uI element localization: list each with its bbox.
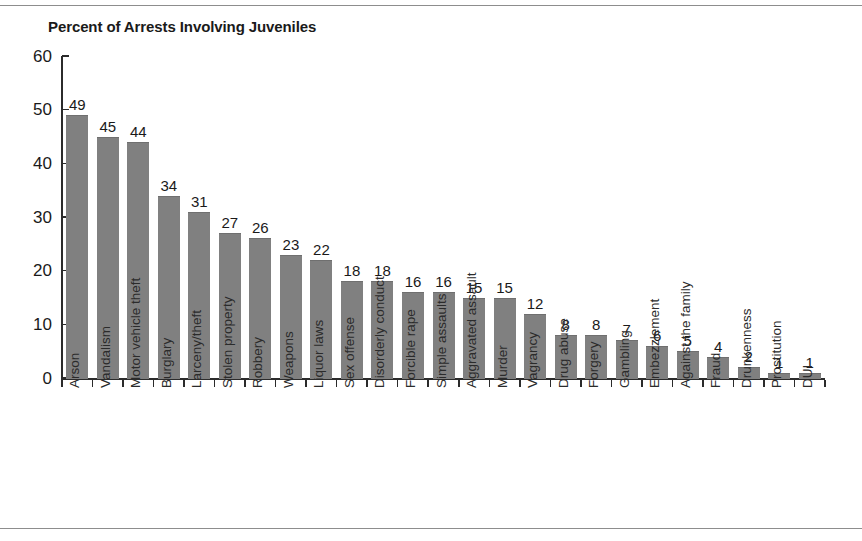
bar-value-label: 15 xyxy=(485,280,525,295)
x-axis-label-text: Drunkenness xyxy=(740,308,754,388)
y-axis-tick-label: 30 xyxy=(0,209,52,226)
x-axis-tick xyxy=(550,380,552,387)
x-axis-tick xyxy=(702,380,704,387)
bar-value-label: 12 xyxy=(515,296,555,311)
x-axis-tick xyxy=(824,380,826,387)
x-axis-tick xyxy=(153,380,155,387)
bar-value-label: 22 xyxy=(301,242,341,257)
x-axis-label-text: Simple assaults xyxy=(435,293,449,388)
bar-value-label: 34 xyxy=(149,178,189,193)
x-axis-label-text: Prostitution xyxy=(770,320,784,388)
y-axis-tick-label-text: 50 xyxy=(12,101,52,118)
bar-value-label: 44 xyxy=(118,124,158,139)
y-axis-tick-label: 0 xyxy=(0,370,52,387)
x-axis-label-text: Motor vehicle theft xyxy=(129,278,143,388)
y-axis-tick-label-text: 20 xyxy=(12,262,52,279)
x-axis-tick xyxy=(763,380,765,387)
x-axis-tick xyxy=(92,380,94,387)
x-axis-label-text: Drug abuse xyxy=(557,318,571,388)
x-axis-label-text: Fraud xyxy=(709,353,723,388)
x-axis-tick xyxy=(183,380,185,387)
x-axis-label-text: Aggravated assault xyxy=(465,272,479,388)
x-axis-label-text: Sex offense xyxy=(343,317,357,388)
x-axis-label-text: DUI xyxy=(801,365,815,388)
x-axis-label-text: Arson xyxy=(68,353,82,388)
y-axis-tick-label-text: 0 xyxy=(12,370,52,387)
x-axis-label-text: Embezzlement xyxy=(648,299,662,388)
x-axis-label-text: Gambling xyxy=(618,330,632,388)
x-axis-tick xyxy=(458,380,460,387)
x-axis-label-text: Vagrancy xyxy=(526,332,540,388)
y-axis-tick-label: 40 xyxy=(0,155,52,172)
y-axis-tick-label-text: 40 xyxy=(12,155,52,172)
x-axis-tick xyxy=(61,380,63,387)
x-axis-tick xyxy=(244,380,246,387)
x-axis-tick xyxy=(427,380,429,387)
x-axis-tick xyxy=(489,380,491,387)
x-axis-tick xyxy=(519,380,521,387)
x-axis-label-text: Robbery xyxy=(251,337,265,388)
y-axis-tick-label: 10 xyxy=(0,316,52,333)
bar-value-label: 49 xyxy=(57,97,97,112)
x-axis-label-text: Murder xyxy=(496,345,510,388)
x-axis-tick xyxy=(580,380,582,387)
bar xyxy=(66,115,88,379)
bar-value-label: 31 xyxy=(179,194,219,209)
x-axis-label-text: Weapons xyxy=(282,331,296,388)
y-axis-tick-label: 50 xyxy=(0,101,52,118)
x-axis-label-text: Stolen property xyxy=(221,296,235,388)
x-axis-label-text: Vandalism xyxy=(99,326,113,388)
x-axis-tick xyxy=(305,380,307,387)
x-axis-tick xyxy=(336,380,338,387)
x-axis-label-text: Burglary xyxy=(160,338,174,388)
x-axis-label-text: Against the family xyxy=(679,281,693,388)
x-axis-tick xyxy=(275,380,277,387)
bar-chart: Percent of Arrests Involving Juveniles 0… xyxy=(0,0,862,541)
x-axis-label-text: Forcible rape xyxy=(404,309,418,388)
x-axis-tick xyxy=(122,380,124,387)
x-axis-tick xyxy=(366,380,368,387)
chart-title: Percent of Arrests Involving Juveniles xyxy=(48,18,316,35)
y-axis-tick-label-text: 60 xyxy=(12,48,52,65)
x-axis-label-text: Liquor laws xyxy=(312,320,326,388)
y-axis-tick-label: 60 xyxy=(0,48,52,65)
x-axis-tick xyxy=(733,380,735,387)
y-axis-tick xyxy=(62,55,69,57)
x-axis-tick xyxy=(794,380,796,387)
x-axis-label-text: Disorderly conduct xyxy=(373,276,387,388)
x-axis-tick xyxy=(641,380,643,387)
y-axis-tick-label-text: 30 xyxy=(12,209,52,226)
x-axis-tick xyxy=(214,380,216,387)
x-axis-label-text: Forgery xyxy=(587,341,601,388)
y-axis-tick-label: 20 xyxy=(0,262,52,279)
x-axis-tick xyxy=(397,380,399,387)
x-axis-label-text: Larceny/theft xyxy=(190,310,204,388)
bar-value-label: 26 xyxy=(240,220,280,235)
x-axis-tick xyxy=(611,380,613,387)
y-axis-tick-label-text: 10 xyxy=(12,316,52,333)
x-axis-tick xyxy=(672,380,674,387)
